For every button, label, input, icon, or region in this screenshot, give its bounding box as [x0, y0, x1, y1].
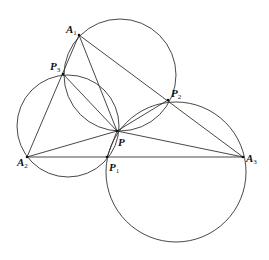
- label-P1: P1: [109, 161, 120, 175]
- point-P: [116, 130, 119, 133]
- geometry-diagram: A1 P3 P2 P A2 P1 A3: [0, 0, 269, 260]
- segment-A3-P: [117, 131, 243, 157]
- segment-A1-A2: [27, 35, 79, 157]
- point-A2: [26, 156, 29, 159]
- label-A1: A1: [65, 23, 77, 37]
- point-A3: [242, 156, 245, 159]
- circle-A3-P1-P-P2: [106, 102, 246, 242]
- circles: [17, 19, 246, 242]
- label-A3: A3: [245, 152, 257, 166]
- point-P2: [167, 99, 170, 102]
- circle-A2-P3-P-P1: [17, 75, 119, 177]
- point-A1: [78, 34, 81, 37]
- label-P3: P3: [50, 60, 61, 74]
- point-P3: [62, 73, 65, 76]
- point-P1: [106, 156, 109, 159]
- diagram-canvas: A1 P3 P2 P A2 P1 A3: [0, 0, 269, 260]
- label-P2: P2: [171, 87, 182, 101]
- label-P: P: [118, 136, 125, 148]
- segments: [26, 34, 245, 159]
- segment-A2-P: [27, 131, 117, 157]
